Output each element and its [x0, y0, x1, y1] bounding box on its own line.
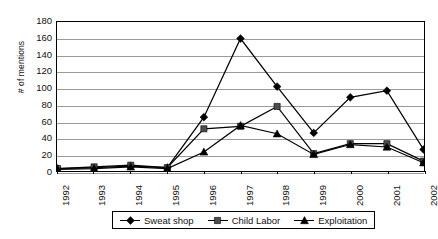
legend-item-exploitation[interactable]: Exploitation: [294, 215, 367, 226]
chart-container: # of mentions 020406080100120140160180 1…: [0, 0, 438, 239]
data-point-marker: [126, 216, 134, 224]
x-axis-tick-mark: [93, 171, 94, 174]
series-child-labor: [57, 103, 424, 171]
x-axis-tick-mark: [57, 171, 58, 174]
legend-diamond-icon: [120, 215, 140, 225]
y-axis-tick-labels: 020406080100120140160180: [18, 0, 52, 239]
data-point-marker: [215, 217, 221, 223]
y-axis-tick-label: 120: [18, 67, 52, 77]
x-axis-tick-mark: [167, 171, 168, 174]
x-axis-tick-label: 2000: [355, 185, 365, 206]
x-axis-tick-label: 2001: [392, 185, 402, 206]
x-axis-tick-label: 1996: [208, 185, 218, 206]
plot-area: [56, 21, 425, 172]
data-point-marker: [200, 148, 208, 155]
x-axis-tick-mark: [425, 171, 426, 174]
series-sweat-shop: [57, 35, 424, 171]
x-axis-tick-label: 1997: [245, 185, 255, 206]
y-axis-tick-label: 80: [18, 100, 52, 110]
x-axis-tick-mark: [314, 171, 315, 174]
x-axis-tick-label: 2002: [429, 185, 438, 206]
series-layer: [57, 22, 424, 171]
x-axis-tick-labels: 1992199319941995199619971998199920002001…: [56, 174, 425, 208]
legend-label: Exploitation: [318, 215, 367, 226]
x-axis-tick-label: 1992: [61, 185, 71, 206]
y-axis-tick-label: 100: [18, 83, 52, 93]
data-point-marker: [201, 126, 207, 132]
y-axis-tick-label: 40: [18, 134, 52, 144]
data-point-marker: [383, 87, 391, 95]
x-axis-tick-mark: [277, 171, 278, 174]
x-axis-tick-label: 1999: [318, 185, 328, 206]
x-axis-tick-label: 1995: [171, 185, 181, 206]
y-axis-tick-label: 60: [18, 117, 52, 127]
y-axis-tick-label: 140: [18, 50, 52, 60]
y-axis-tick-label: 180: [18, 16, 52, 26]
x-axis-tick-mark: [351, 171, 352, 174]
chart-legend: Sweat shopChild LaborExploitation: [112, 211, 375, 229]
x-axis-tick-mark: [241, 171, 242, 174]
legend-label: Sweat shop: [144, 215, 194, 226]
y-axis-tick-label: 160: [18, 33, 52, 43]
legend-item-child-labor[interactable]: Child Labor: [208, 215, 281, 226]
x-axis-tick-mark: [388, 171, 389, 174]
legend-triangle-icon: [294, 215, 314, 225]
x-axis-tick-mark: [204, 171, 205, 174]
x-axis-tick-label: 1993: [97, 185, 107, 206]
data-point-marker: [300, 216, 308, 223]
legend-label: Child Labor: [232, 215, 281, 226]
legend-square-icon: [208, 215, 228, 225]
x-axis-tick-label: 1994: [134, 185, 144, 206]
data-point-marker: [274, 103, 280, 109]
series-line: [57, 125, 423, 169]
x-axis-tick-mark: [130, 171, 131, 174]
x-axis-tick-label: 1998: [281, 185, 291, 206]
y-axis-tick-label: 0: [18, 167, 52, 177]
legend-item-sweat-shop[interactable]: Sweat shop: [120, 215, 194, 226]
y-axis-tick-label: 20: [18, 150, 52, 160]
series-line: [57, 106, 423, 168]
series-line: [57, 39, 423, 169]
